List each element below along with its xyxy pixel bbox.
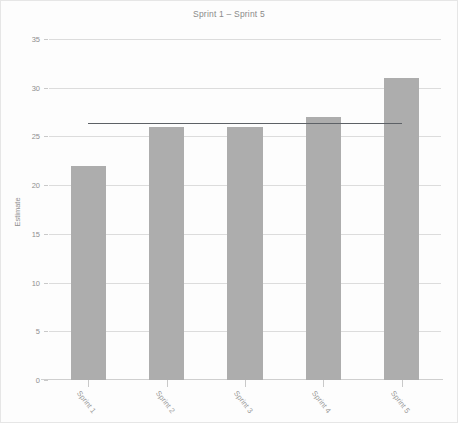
bar[interactable] (227, 127, 262, 380)
y-axis-tick-label: 30 (32, 83, 40, 92)
x-axis-tick-label: Sprint 2 (154, 389, 177, 415)
y-axis-title: Estimate (13, 197, 22, 226)
y-axis-tick-label: 20 (32, 181, 40, 190)
average-reference-line (88, 123, 402, 125)
gridline (49, 39, 441, 40)
y-axis-tick-label: 0 (36, 376, 40, 385)
y-axis-tick-mark (44, 88, 48, 89)
x-axis-tick-mark (167, 380, 168, 387)
y-axis-tick-label: 25 (32, 132, 40, 141)
bar[interactable] (149, 127, 184, 380)
y-axis-tick-label: 5 (36, 327, 40, 336)
chart-container: Sprint 1 – Sprint 5 Estimate 05101520253… (0, 0, 458, 423)
x-axis-tick-mark (88, 380, 89, 387)
y-axis-tick-mark (44, 39, 48, 40)
y-axis-tick-mark (44, 234, 48, 235)
x-axis-tick-mark (402, 380, 403, 387)
plot-area: 05101520253035 Sprint 1Sprint 2Sprint 3S… (49, 39, 441, 380)
gridline (49, 88, 441, 89)
y-axis-tick-mark (44, 331, 48, 332)
x-axis-tick-mark (323, 380, 324, 387)
x-axis-tick-label: Sprint 4 (310, 389, 333, 415)
bar[interactable] (71, 166, 106, 380)
x-axis-tick-label: Sprint 1 (75, 389, 98, 415)
x-axis-tick-mark (245, 380, 246, 387)
y-axis-tick-label: 10 (32, 278, 40, 287)
y-axis-tick-mark (44, 136, 48, 137)
y-axis-tick-mark (44, 380, 48, 381)
chart-title: Sprint 1 – Sprint 5 (1, 9, 457, 19)
y-axis-tick-label: 15 (32, 229, 40, 238)
x-axis-tick-label: Sprint 5 (389, 389, 412, 415)
y-axis-tick-mark (44, 283, 48, 284)
bar[interactable] (306, 117, 341, 380)
y-axis-tick-label: 35 (32, 35, 40, 44)
y-axis-tick-mark (44, 185, 48, 186)
x-axis-tick-label: Sprint 3 (232, 389, 255, 415)
